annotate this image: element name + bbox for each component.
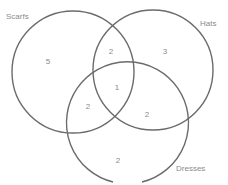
set-label-dresses: Dresses — [176, 164, 205, 173]
venn-diagram: Scarfs Hats Dresses 5 3 2 2 2 2 1 — [0, 0, 228, 185]
set-label-scarfs: Scarfs — [6, 12, 29, 21]
region-scarfs-dresses: 2 — [86, 102, 91, 111]
region-scarfs-only: 5 — [46, 57, 51, 66]
hats-circle — [93, 10, 213, 130]
region-hats-only: 3 — [163, 47, 168, 56]
region-dresses-only: 2 — [116, 156, 121, 165]
region-hats-dresses: 2 — [145, 110, 150, 119]
set-label-hats: Hats — [200, 19, 216, 28]
dresses-circle — [66, 62, 188, 182]
region-scarfs-hats: 2 — [109, 47, 114, 56]
scarfs-circle — [12, 11, 134, 133]
region-all-three: 1 — [115, 83, 120, 92]
